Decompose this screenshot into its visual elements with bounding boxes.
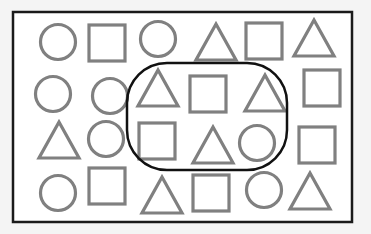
shape-diagram <box>0 0 371 234</box>
